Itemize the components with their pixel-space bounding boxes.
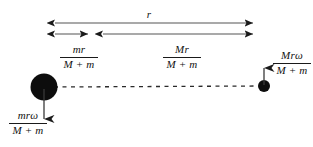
fraction-denominator: M + m — [163, 59, 200, 71]
fraction-numerator: Mr — [163, 44, 200, 56]
fraction-denominator: M + m — [9, 125, 46, 137]
label-small-body-velocity: Mrω M + m — [270, 50, 313, 77]
rotation-axis-dashed-line — [54, 86, 258, 87]
label-large-body-velocity: mrω M + m — [5, 110, 51, 137]
fraction-mr-over-M-plus-m: mr M + m — [60, 44, 97, 70]
fraction-Mromega-over-M-plus-m: Mrω M + m — [273, 50, 310, 76]
fraction-mromega-over-M-plus-m: mrω M + m — [9, 110, 46, 136]
fraction-numerator: mrω — [9, 110, 46, 122]
label-large-mass-radius: Mr M + m — [156, 44, 208, 71]
fraction-numerator: Mrω — [273, 50, 310, 62]
fraction-numerator: mr — [60, 44, 97, 56]
fraction-Mr-over-M-plus-m: Mr M + m — [163, 44, 200, 70]
physics-diagram-canvas: r mr M + m Mr M + m Mrω M + m mrω M + m — [0, 0, 313, 147]
label-small-mass-radius: mr M + m — [54, 44, 104, 71]
fraction-denominator: M + m — [273, 65, 310, 77]
label-r-text: r — [147, 8, 151, 20]
label-total-separation-r: r — [141, 5, 157, 22]
fraction-denominator: M + m — [60, 59, 97, 71]
